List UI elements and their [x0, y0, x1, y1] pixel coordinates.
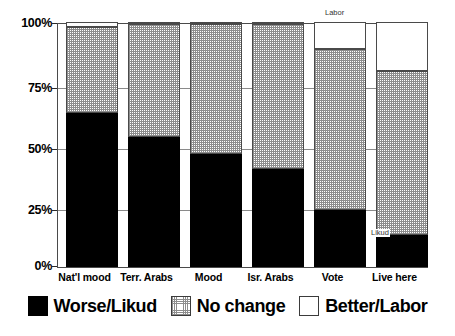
bar-mood[interactable]: [190, 22, 242, 267]
legend-label-better-labor: Better/Labor: [325, 297, 427, 315]
x-tick-label-live-here: Live here: [349, 272, 440, 284]
bar-segment-worse: [128, 137, 180, 267]
bar-vote[interactable]: [314, 22, 366, 267]
bar-segment-worse: [66, 113, 118, 267]
y-tick-label-25: 25%: [0, 204, 52, 217]
bar-segment-worse: [190, 154, 242, 267]
annotation-labor: Labor: [324, 9, 345, 17]
bar-segment-no-change: [376, 71, 428, 235]
bar-segment-better: [314, 22, 366, 49]
legend-label-no-change: No change: [197, 297, 285, 315]
legend-item-better-labor[interactable]: Better/Labor: [299, 296, 427, 316]
legend-swatch-better-icon: [299, 296, 319, 316]
legend-label-worse-likud: Worse/Likud: [54, 297, 157, 315]
bar-segment-no-change: [128, 24, 180, 137]
legend-swatch-no-change-icon: [171, 296, 191, 316]
legend-item-no-change[interactable]: No change: [171, 296, 285, 316]
y-tick-label-50: 50%: [0, 143, 52, 156]
bar-segment-worse: [376, 235, 428, 267]
stacked-bar-chart: 100% 75% 50% 25% 0%: [0, 0, 455, 336]
bar-segment-better: [376, 22, 428, 71]
bar-segment-no-change: [66, 27, 118, 113]
bar-isr-arabs[interactable]: [252, 22, 304, 267]
bar-terr-arabs[interactable]: [128, 22, 180, 267]
annotation-likud: Likud: [370, 229, 390, 237]
bar-segment-worse: [314, 210, 366, 267]
bar-segment-worse: [252, 169, 304, 267]
bar-segment-no-change: [190, 24, 242, 154]
y-tick-label-100: 100%: [0, 17, 52, 30]
bar-segment-no-change: [252, 24, 304, 169]
y-tick-label-75: 75%: [0, 82, 52, 95]
bar-natl-mood[interactable]: [66, 22, 118, 267]
legend-swatch-worse-icon: [28, 296, 48, 316]
y-tick-label-0: 0%: [0, 260, 52, 273]
legend-item-worse-likud[interactable]: Worse/Likud: [28, 296, 157, 316]
chart-legend: Worse/Likud No change Better/Labor: [0, 296, 455, 316]
bar-segment-no-change: [314, 49, 366, 210]
